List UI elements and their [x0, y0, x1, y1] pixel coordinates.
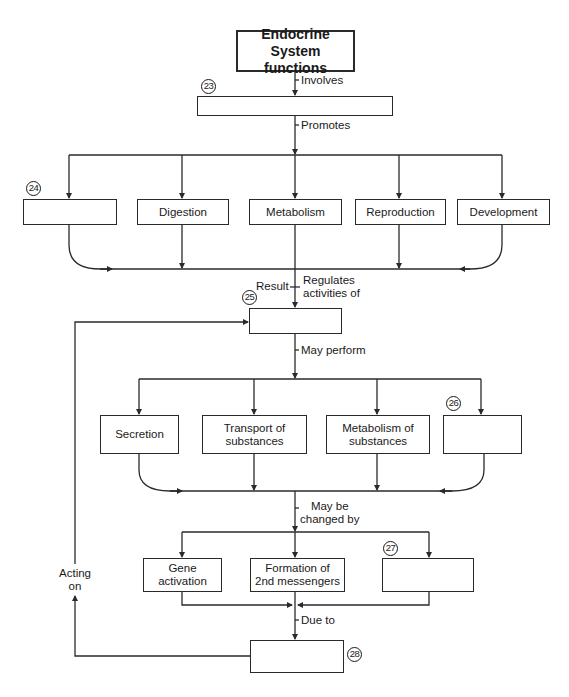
process-box-reproduction: Reproduction	[355, 199, 446, 225]
mechanism-label-line1: Formation of	[255, 562, 340, 575]
activity-label-line1: Transport of	[224, 422, 286, 435]
regulates-line-2: activities of	[303, 287, 360, 300]
mechanism-box-gene-activation: Geneactivation	[143, 558, 222, 592]
blank-box-23[interactable]	[197, 96, 393, 116]
blank-box-28[interactable]	[250, 640, 344, 673]
blank-number-24: 24	[26, 181, 41, 196]
acting-line-2: on	[55, 580, 95, 593]
activity-box-secretion: Secretion	[100, 415, 179, 454]
title-text: Endocrine System functions	[238, 26, 353, 77]
edge-label-regulates: Regulates activities of	[303, 274, 360, 300]
endocrine-system-title-box: Endocrine System functions	[236, 30, 355, 72]
blank-box-24[interactable]	[23, 199, 117, 225]
blank-number-26: 26	[446, 396, 461, 411]
mechanism-box-second-messengers: Formation of2nd messengers	[250, 558, 345, 592]
process-box-digestion: Digestion	[137, 199, 229, 225]
process-label: Metabolism	[266, 206, 325, 219]
blank-box-26[interactable]	[443, 415, 522, 454]
process-box-metabolism: Metabolism	[249, 199, 342, 225]
may-be-line-2: changed by	[300, 513, 359, 526]
edge-label-result: Result	[256, 280, 289, 293]
process-label: Reproduction	[366, 206, 434, 219]
mechanism-label-line2: activation	[158, 575, 207, 588]
regulates-line-1: Regulates	[303, 274, 360, 287]
activity-box-metabolism-of-substances: Metabolism ofsubstances	[326, 415, 430, 454]
edge-label-may-be-changed-by: May be changed by	[300, 500, 359, 526]
activity-label-line1: Metabolism of	[342, 422, 414, 435]
edge-label-involves: Involves	[301, 74, 343, 87]
may-be-line-1: May be	[300, 500, 359, 513]
activity-label-line2: substances	[342, 435, 414, 448]
activity-label: Secretion	[115, 428, 164, 441]
edge-label-may-perform: May perform	[301, 344, 366, 357]
process-label: Digestion	[159, 206, 207, 219]
activity-box-transport: Transport ofsubstances	[202, 415, 307, 454]
blank-number-25: 25	[242, 290, 257, 305]
endocrine-concept-map: Endocrine System functions 23 Involves P…	[0, 0, 569, 697]
edge-label-due-to: Due to	[301, 614, 335, 627]
process-box-development: Development	[457, 199, 550, 225]
mechanism-label-line2: 2nd messengers	[255, 575, 340, 588]
blank-number-27: 27	[383, 541, 398, 556]
edge-label-promotes: Promotes	[301, 119, 350, 132]
edge-label-acting-on: Acting on	[55, 567, 95, 593]
mechanism-label-line1: Gene	[158, 562, 207, 575]
process-label: Development	[470, 206, 538, 219]
acting-line-1: Acting	[55, 567, 95, 580]
activity-label-line2: substances	[224, 435, 286, 448]
blank-number-23: 23	[201, 79, 216, 94]
blank-number-28: 28	[347, 647, 362, 662]
blank-box-27[interactable]	[382, 558, 474, 592]
blank-box-25[interactable]	[249, 308, 342, 334]
